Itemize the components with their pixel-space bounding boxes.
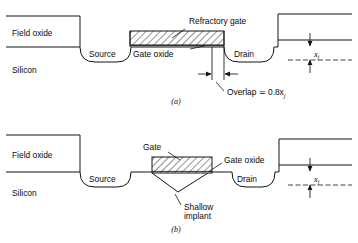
gate-label-b: Gate — [143, 142, 161, 152]
drain-label-a: Drain — [234, 49, 254, 59]
field-oxide-label-a: Field oxide — [12, 28, 53, 38]
panel-a-id: (a) — [171, 97, 181, 106]
field-oxide-label-b: Field oxide — [12, 150, 53, 160]
silicon-label-a: Silicon — [12, 65, 37, 75]
shallow-implant-label-line2-b: implant — [184, 211, 212, 221]
refractory-gate-label-a: Refractory gate — [189, 16, 247, 26]
gate-oxide-label-a: Gate oxide — [133, 49, 174, 59]
semiconductor-cross-section-figure: Refractory gate Gate oxide Field oxide S… — [0, 0, 358, 243]
figure-container: Refractory gate Gate oxide Field oxide S… — [0, 0, 358, 243]
panel-b-id: (b) — [171, 225, 181, 234]
gate-block-b — [152, 157, 212, 173]
source-label-b: Source — [89, 174, 116, 184]
overlap-label-a: Overlap ≃ 0.8xj — [227, 87, 286, 99]
source-label-a: Source — [89, 49, 116, 59]
gate-oxide-label-b: Gate oxide — [224, 155, 265, 165]
silicon-label-b: Silicon — [12, 188, 37, 198]
drain-label-b: Drain — [237, 174, 257, 184]
refractory-gate-block-a — [130, 31, 224, 45]
